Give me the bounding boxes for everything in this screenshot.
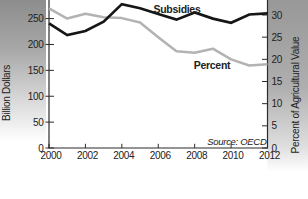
percent-series-label: Percent	[194, 59, 231, 71]
left-tick-label: 200	[28, 39, 45, 50]
right-tick-label: 5	[272, 120, 278, 131]
left-tick-label: 50	[33, 117, 44, 128]
right-tick-label: 10	[272, 98, 283, 109]
x-tick-label: 2004	[113, 150, 135, 161]
subsidies-series-label: Subsidies	[154, 3, 201, 15]
x-tick-label: 2012	[259, 150, 281, 161]
right-tick-label: 25	[272, 32, 283, 43]
right-tick-label: 30	[272, 10, 283, 21]
x-tick-label: 2006	[150, 150, 172, 161]
left-tick-label: 100	[28, 91, 45, 102]
x-tick-label: 2010	[223, 150, 245, 161]
left-axis-title: Billion Dollars	[1, 65, 12, 121]
source-note: Source: OECD	[207, 136, 267, 147]
x-tick-label: 2008	[186, 150, 208, 161]
x-tick-label: 2000	[40, 150, 62, 161]
dual-axis-line-chart: 0501001502002500510152025302000200220042…	[0, 0, 308, 199]
chart-figure: 0501001502002500510152025302000200220042…	[0, 0, 308, 199]
x-tick-label: 2002	[77, 150, 99, 161]
right-axis-title: Percent of Agricultural Value	[290, 36, 301, 153]
left-tick-label: 250	[28, 13, 45, 24]
right-tick-label: 15	[272, 76, 283, 87]
percent-line	[49, 8, 268, 65]
left-tick-label: 150	[28, 65, 45, 76]
right-tick-label: 20	[272, 54, 283, 65]
